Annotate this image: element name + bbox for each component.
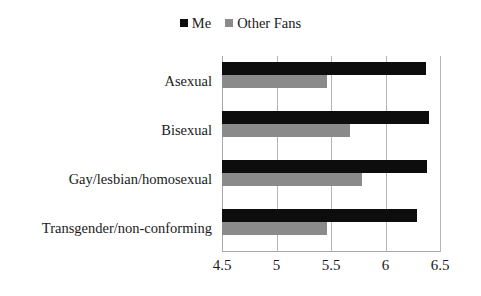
square-swatch-icon <box>180 19 188 27</box>
bar-me[interactable] <box>222 160 427 173</box>
bars-layer <box>222 56 440 252</box>
bar-group <box>222 105 440 154</box>
bar-other-fans[interactable] <box>222 75 327 88</box>
x-tick-label: 6 <box>382 258 390 273</box>
bar-other-fans[interactable] <box>222 222 327 235</box>
x-tick-label: 5 <box>273 258 281 273</box>
bar-group <box>222 154 440 203</box>
category-label: Transgender/non-conforming <box>0 221 218 236</box>
bar-other-fans[interactable] <box>222 173 362 186</box>
category-axis-labels: AsexualBisexualGay/lesbian/homosexualTra… <box>0 56 218 252</box>
bar-me[interactable] <box>222 111 429 124</box>
gridline <box>440 56 441 252</box>
legend-label: Me <box>192 16 211 31</box>
legend-label: Other Fans <box>237 16 301 31</box>
category-label: Gay/lesbian/homosexual <box>0 172 218 187</box>
x-axis-tick-labels: 4.555.566.5 <box>222 258 440 282</box>
category-label: Asexual <box>0 74 218 89</box>
x-tick-label: 6.5 <box>431 258 450 273</box>
legend-entry[interactable]: Me <box>180 16 211 31</box>
bar-group <box>222 203 440 252</box>
bar-me[interactable] <box>222 209 417 222</box>
x-tick-label: 4.5 <box>213 258 232 273</box>
square-swatch-icon <box>225 19 233 27</box>
bar-group <box>222 56 440 105</box>
bar-me[interactable] <box>222 62 426 75</box>
x-tick-label: 5.5 <box>322 258 341 273</box>
chart-legend: MeOther Fans <box>0 12 481 34</box>
bar-chart: MeOther Fans AsexualBisexualGay/lesbian/… <box>0 0 481 296</box>
bar-other-fans[interactable] <box>222 124 350 137</box>
legend-entry[interactable]: Other Fans <box>225 16 301 31</box>
category-label: Bisexual <box>0 123 218 138</box>
